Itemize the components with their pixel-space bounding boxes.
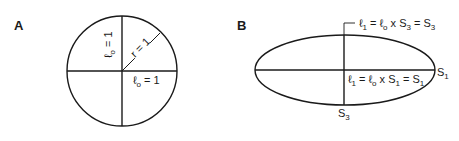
panel-b: B ℓ1 = ℓo x S3 = S3 ℓ1 = ℓo x S1 = S1 S1… <box>237 17 449 122</box>
top-length-label: ℓ1 = ℓo x S3 = S3 <box>359 17 436 32</box>
horizontal-length-label: ℓo = 1 <box>133 74 160 89</box>
panel-a: A ℓo = 1 r = 1 ℓo = 1 <box>14 16 177 126</box>
panel-a-label: A <box>14 18 24 33</box>
s3-axis-label: S3 <box>338 107 350 122</box>
s1-axis-label: S1 <box>437 66 449 81</box>
strain-ellipse-diagram: A ℓo = 1 r = 1 ℓo = 1 B ℓ1 = ℓo x S3 = S… <box>0 0 459 141</box>
vertical-length-label: ℓo = 1 <box>102 31 117 58</box>
top-label-leader <box>344 23 355 35</box>
inner-length-label: ℓ1 = ℓo x S1 = S1 <box>348 73 425 88</box>
panel-b-label: B <box>237 18 246 33</box>
